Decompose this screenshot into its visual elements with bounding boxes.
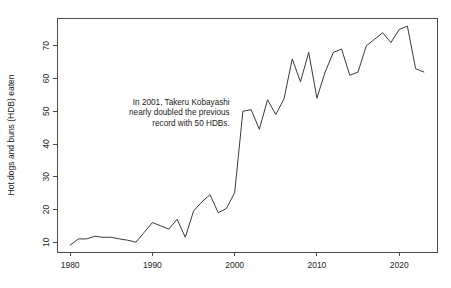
plot-box xyxy=(57,18,437,252)
y-tick-label: 60 xyxy=(41,74,51,84)
y-tick-label: 20 xyxy=(41,204,51,214)
y-tick-label: 70 xyxy=(41,41,51,51)
annotation-line: In 2001, Takeru Kobayashi xyxy=(133,98,230,107)
chart-container: 10203040506070 19801990200020102020 In 2… xyxy=(0,0,451,288)
x-tick-label: 1980 xyxy=(61,260,80,270)
annotation-line: nearly doubled the previous xyxy=(129,108,230,117)
hot-dog-contest-line-chart: 10203040506070 19801990200020102020 In 2… xyxy=(0,0,451,288)
y-tick-label: 30 xyxy=(41,172,51,182)
x-tick-label: 2010 xyxy=(307,260,326,270)
plot-frame xyxy=(57,18,437,252)
y-axis: 10203040506070 xyxy=(41,41,57,247)
annotation-line: record with 50 HDBs. xyxy=(152,119,229,128)
x-tick-label: 2000 xyxy=(225,260,244,270)
y-tick-label: 10 xyxy=(41,237,51,247)
y-tick-label: 40 xyxy=(41,139,51,149)
x-tick-label: 1990 xyxy=(143,260,162,270)
series-line-0 xyxy=(70,26,424,245)
chart-annotation: In 2001, Takeru Kobayashinearly doubled … xyxy=(129,98,230,128)
x-tick-label: 2020 xyxy=(390,260,409,270)
y-axis-title: Hot dogs and buns (HDB) eaten xyxy=(6,74,16,195)
x-axis: 19801990200020102020 xyxy=(61,252,409,270)
data-series-line xyxy=(70,26,424,245)
y-tick-label: 50 xyxy=(41,106,51,116)
